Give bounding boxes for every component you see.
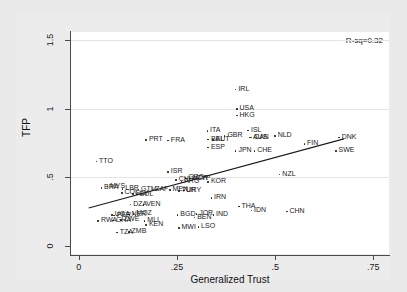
- point-label: SWE: [339, 146, 355, 154]
- point-label: ESP: [211, 143, 225, 151]
- x-tick: [177, 255, 178, 260]
- y-tick: [65, 246, 71, 247]
- x-axis-title: Generalized Trust: [71, 274, 389, 285]
- point-marker: [144, 220, 146, 222]
- point-marker: [167, 171, 169, 173]
- point-marker: [213, 214, 215, 216]
- x-axis-line: [70, 255, 390, 256]
- point-label: NLD: [278, 131, 292, 139]
- point-marker: [274, 135, 276, 137]
- point-marker: [101, 187, 103, 189]
- point-marker: [235, 89, 237, 91]
- point-marker: [251, 210, 253, 212]
- point-label: FIN: [307, 139, 318, 147]
- point-marker: [116, 232, 118, 234]
- point-marker: [175, 179, 177, 181]
- x-tick-label: .5: [271, 262, 279, 272]
- point-marker: [211, 197, 213, 199]
- point-label: ISR: [171, 167, 183, 175]
- point-marker: [207, 139, 209, 141]
- point-label: TUR: [181, 186, 195, 194]
- point-marker: [207, 130, 209, 132]
- point-marker: [212, 139, 214, 141]
- point-label: ZMB: [132, 227, 147, 235]
- point-marker: [145, 224, 147, 226]
- point-marker: [96, 161, 98, 163]
- point-label: BRA: [104, 183, 118, 191]
- point-label: HKG: [240, 111, 255, 119]
- chart-card: R-sq=0.32 IRLUSAHKGISLITAGBRNLDDNKAUSCAN…: [16, 12, 391, 280]
- y-axis-line: [70, 31, 71, 255]
- point-marker: [254, 150, 256, 152]
- point-marker: [121, 192, 123, 194]
- point-marker: [335, 150, 337, 152]
- x-tick-label: 0: [76, 262, 81, 272]
- y-tick: [65, 109, 71, 110]
- point-marker: [304, 143, 306, 145]
- point-label: ZAF: [155, 185, 168, 193]
- y-tick-label: .5: [45, 166, 55, 188]
- x-tick-label: .25: [171, 262, 184, 272]
- point-label: NZL: [282, 170, 295, 178]
- point-label: IRL: [238, 85, 249, 93]
- gridline-y: [71, 40, 389, 41]
- point-label: PRT: [149, 135, 163, 143]
- point-label: CHE: [257, 146, 272, 154]
- chart-figure: R-sq=0.32 IRLUSAHKGISLITAGBRNLDDNKAUSCAN…: [0, 0, 407, 292]
- point-label: IND: [216, 210, 228, 218]
- y-tick-label: 1.5: [45, 29, 55, 51]
- x-tick: [373, 255, 374, 260]
- point-label: JPN: [238, 146, 251, 154]
- point-marker: [178, 227, 180, 229]
- point-label: AUT: [216, 135, 230, 143]
- x-tick-label: .75: [367, 262, 380, 272]
- point-marker: [143, 204, 145, 206]
- x-tick: [79, 255, 80, 260]
- point-marker: [236, 115, 238, 117]
- point-label: DZA: [133, 200, 147, 208]
- point-label: CHN: [289, 207, 304, 215]
- point-label: TTO: [99, 157, 113, 165]
- plot-area: R-sq=0.32 IRLUSAHKGISLITAGBRNLDDNKAUSCAN…: [71, 32, 389, 254]
- point-label: GHA: [116, 216, 131, 224]
- point-label: CAN: [254, 133, 269, 141]
- point-marker: [128, 231, 130, 233]
- point-marker: [178, 190, 180, 192]
- point-marker: [198, 226, 200, 228]
- point-marker: [194, 217, 196, 219]
- point-label: KEN: [149, 220, 163, 228]
- point-marker: [238, 206, 240, 208]
- y-axis-title: TFP: [21, 98, 32, 158]
- point-label: BEN: [197, 213, 211, 221]
- point-marker: [247, 130, 249, 132]
- point-label: ITA: [210, 126, 220, 134]
- gridline-y: [71, 177, 389, 178]
- point-marker: [286, 211, 288, 213]
- point-marker: [145, 139, 147, 141]
- y-tick-label: 1: [45, 98, 55, 120]
- y-tick: [65, 40, 71, 41]
- point-marker: [177, 214, 179, 216]
- point-marker: [169, 189, 171, 191]
- point-marker: [207, 147, 209, 149]
- point-marker: [236, 108, 238, 110]
- point-label: FRA: [171, 136, 185, 144]
- point-label: ARG: [184, 177, 199, 185]
- point-marker: [279, 174, 281, 176]
- point-marker: [167, 140, 169, 142]
- x-tick: [275, 255, 276, 260]
- point-label: BOL: [139, 190, 153, 198]
- point-marker: [97, 220, 99, 222]
- point-label: KOR: [211, 177, 226, 185]
- point-label: MWI: [181, 223, 195, 231]
- point-marker: [132, 193, 134, 195]
- y-tick-label: 0: [45, 235, 55, 257]
- point-label: IRN: [214, 193, 226, 201]
- point-label: DNK: [342, 133, 357, 141]
- point-label: IDN: [254, 206, 266, 214]
- point-marker: [235, 150, 237, 152]
- gridline-y: [71, 109, 389, 110]
- point-marker: [207, 181, 209, 183]
- point-label: RWA: [101, 216, 117, 224]
- point-label: VEN: [146, 200, 160, 208]
